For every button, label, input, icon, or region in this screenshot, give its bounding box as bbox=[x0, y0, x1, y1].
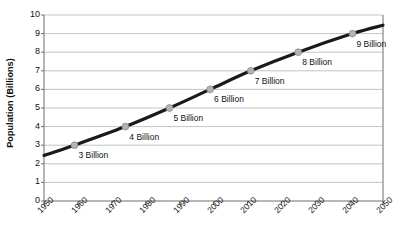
population-line-chart: Population (Billions) 012345678910 19501… bbox=[0, 0, 399, 243]
point-label-5-billion: 5 Billion bbox=[173, 113, 203, 123]
gridlines bbox=[44, 15, 383, 201]
point-label-9-billion: 9 Billion bbox=[356, 39, 386, 49]
point-label-3-billion: 3 Billion bbox=[79, 150, 109, 160]
point-label-7-billion: 7 Billion bbox=[255, 76, 285, 86]
point-label-6-billion: 6 Billion bbox=[214, 94, 244, 104]
point-label-8-billion: 8 Billion bbox=[302, 57, 332, 67]
point-label-4-billion: 4 Billion bbox=[129, 132, 159, 142]
